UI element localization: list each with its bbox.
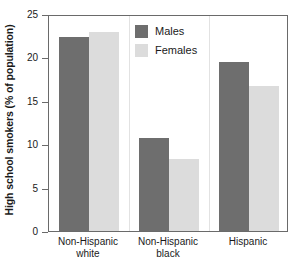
x-axis-label-group-3: Hispanic — [208, 236, 288, 248]
bar-females-group-1 — [89, 32, 119, 231]
y-axis-tick-label: 20 — [0, 52, 38, 64]
y-axis-title: High school smokers (% of population) — [0, 0, 18, 240]
group-separator-line — [209, 16, 210, 231]
legend-item-males: Males — [135, 25, 197, 38]
y-axis-tick-label: 15 — [0, 96, 38, 108]
y-axis-tick-label: 10 — [0, 139, 38, 151]
x-axis-label-line1: Non-Hispanic — [138, 236, 198, 247]
x-axis-label-group-1: Non-Hispanicwhite — [48, 236, 128, 259]
y-axis-tick-label: 0 — [0, 226, 38, 238]
bar-females-group-2 — [169, 159, 199, 231]
plot-area: Males Females — [48, 15, 288, 232]
bar-females-group-3 — [249, 86, 279, 231]
legend-label-females: Females — [155, 45, 197, 56]
y-axis-tick-label: 25 — [0, 9, 38, 21]
x-axis-label-line2: black — [128, 248, 208, 260]
bar-chart-figure: High school smokers (% of population) 05… — [0, 0, 297, 267]
legend-swatch-males-icon — [135, 25, 148, 38]
bar-males-group-2 — [139, 138, 169, 231]
legend-item-females: Females — [135, 44, 197, 57]
legend-label-males: Males — [155, 26, 184, 37]
bar-males-group-1 — [59, 37, 89, 231]
chart-legend: Males Females — [135, 25, 197, 57]
x-axis-label-line1: Hispanic — [229, 236, 267, 247]
y-axis-tick-label: 5 — [0, 183, 38, 195]
x-axis-label-line1: Non-Hispanic — [58, 236, 118, 247]
x-axis-label-group-2: Non-Hispanicblack — [128, 236, 208, 259]
group-separator-line — [129, 16, 130, 231]
y-axis-tick-mark — [42, 232, 48, 233]
x-axis-label-line2: white — [48, 248, 128, 260]
bar-males-group-3 — [219, 62, 249, 231]
legend-swatch-females-icon — [135, 44, 148, 57]
